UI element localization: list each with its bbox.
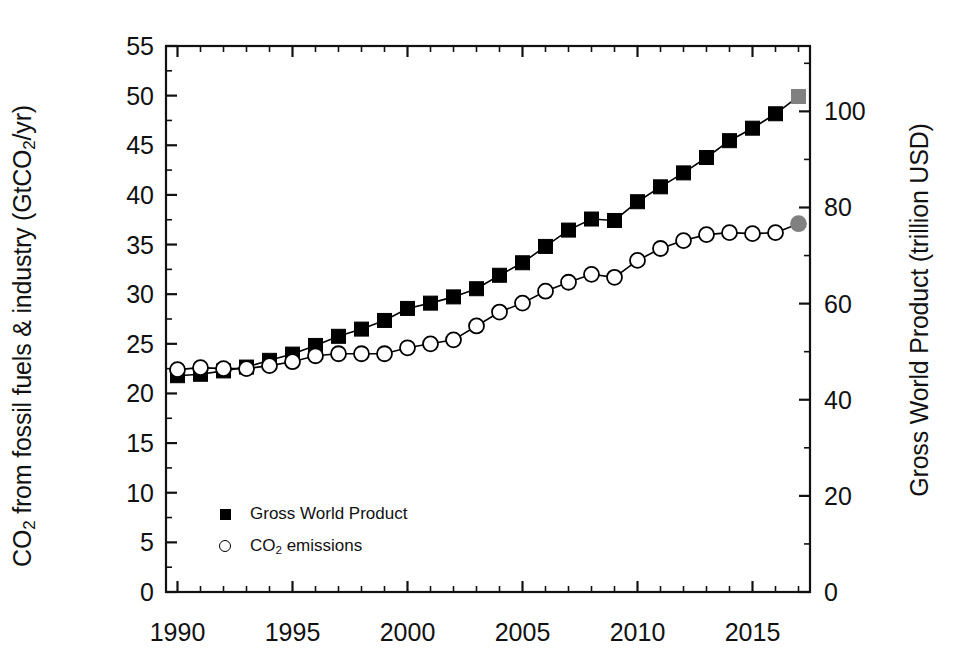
data-point-circle: [469, 318, 484, 333]
data-point-square: [447, 290, 461, 304]
data-point-circle: [262, 358, 277, 373]
data-point-square: [769, 107, 783, 121]
data-point-square: [493, 268, 507, 282]
data-point-circle: [561, 275, 576, 290]
data-point-circle: [193, 360, 208, 375]
open-circle-icon: [212, 540, 238, 552]
data-point-circle: [423, 336, 438, 351]
data-point-square: [700, 151, 714, 165]
data-point-square: [332, 329, 346, 343]
data-point-circle: [676, 233, 691, 248]
data-point-circle: [331, 346, 346, 361]
data-point-circle: [446, 332, 461, 347]
data-point-circle: [285, 354, 300, 369]
data-point-square: [585, 212, 599, 226]
data-point-square: [792, 89, 806, 103]
data-point-circle: [791, 216, 806, 231]
data-point-circle: [538, 284, 553, 299]
data-point-square: [654, 180, 668, 194]
data-point-circle: [515, 296, 530, 311]
legend-item-co2-emissions: CO2 emissions: [212, 530, 407, 562]
data-point-square: [401, 301, 415, 315]
data-point-square: [631, 195, 645, 209]
data-point-square: [562, 223, 576, 237]
data-point-square: [470, 282, 484, 296]
data-point-square: [723, 134, 737, 148]
data-point-circle: [653, 241, 668, 256]
filled-square-icon: [212, 509, 238, 520]
data-point-circle: [308, 348, 323, 363]
data-point-square: [677, 166, 691, 180]
data-point-circle: [768, 225, 783, 240]
data-point-circle: [584, 267, 599, 282]
data-point-circle: [216, 361, 231, 376]
data-point-circle: [722, 225, 737, 240]
legend-label-co2-emissions: CO2 emissions: [250, 536, 362, 556]
legend-label-gross-world-product: Gross World Product: [250, 504, 407, 524]
plot-area: [0, 0, 975, 672]
data-point-circle: [239, 361, 254, 376]
legend-item-gross-world-product: Gross World Product: [212, 498, 407, 530]
data-point-square: [516, 256, 530, 270]
data-point-circle: [630, 253, 645, 268]
chart-page: CO2 from fossil fuels & industry (GtCO2/…: [0, 0, 975, 672]
data-point-square: [746, 121, 760, 135]
data-point-square: [378, 313, 392, 327]
data-point-circle: [400, 340, 415, 355]
data-point-circle: [607, 270, 622, 285]
data-point-square: [424, 296, 438, 310]
data-point-circle: [745, 226, 760, 241]
data-point-square: [539, 239, 553, 253]
chart-legend: Gross World Product CO2 emissions: [212, 498, 407, 562]
data-point-circle: [377, 346, 392, 361]
data-point-square: [355, 322, 369, 336]
data-point-circle: [354, 346, 369, 361]
data-point-circle: [699, 227, 714, 242]
data-point-square: [608, 213, 622, 227]
data-point-circle: [170, 362, 185, 377]
data-point-circle: [492, 305, 507, 320]
